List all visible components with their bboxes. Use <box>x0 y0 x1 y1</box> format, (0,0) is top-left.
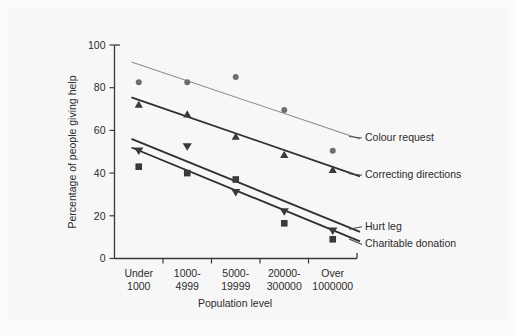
series-label-correcting-directions: Correcting directions <box>365 168 461 180</box>
data-point-charitable-donation <box>184 170 191 177</box>
trend-line-hurt-leg <box>131 139 360 232</box>
series-annotations: Colour requestCorrecting directionsHurt … <box>365 131 461 249</box>
scatter-chart: 020406080100 Under10001000-49995000-1999… <box>0 0 515 336</box>
y-tick-label: 100 <box>88 39 106 51</box>
series-label-colour-request: Colour request <box>365 131 434 143</box>
y-tick-label: 40 <box>94 167 106 179</box>
y-tick-label: 0 <box>100 252 106 264</box>
data-point-charitable-donation <box>135 163 142 170</box>
data-point-correcting-directions <box>183 110 191 117</box>
series-label-charitable-donation: Charitable donation <box>365 237 456 249</box>
x-category-label: 1000000 <box>312 280 353 292</box>
data-point-colour-request <box>233 74 239 80</box>
y-ticks: 020406080100 <box>88 39 115 265</box>
x-axis-title: Population level <box>198 297 272 309</box>
data-point-hurt-leg <box>183 143 192 151</box>
x-ticks <box>163 259 309 264</box>
figure-background: 020406080100 Under10001000-49995000-1999… <box>0 0 515 336</box>
data-point-colour-request <box>184 79 190 85</box>
x-category-label: 20000- <box>268 267 301 279</box>
y-axis-title: Percentage of people giving help <box>66 75 78 228</box>
x-category-label: 1000 <box>127 280 151 292</box>
y-tick-label: 20 <box>94 210 106 222</box>
data-point-charitable-donation <box>329 236 336 243</box>
x-category-label: 5000- <box>222 267 249 279</box>
x-category-labels: Under10001000-49995000-1999920000-300000… <box>124 267 353 292</box>
data-point-colour-request <box>330 148 336 154</box>
data-point-charitable-donation <box>232 176 239 183</box>
leader-line-correcting-directions <box>349 174 362 176</box>
leader-line-colour-request <box>349 136 362 138</box>
data-point-colour-request <box>281 107 287 113</box>
y-tick-label: 80 <box>94 81 106 93</box>
y-tick-label: 60 <box>94 124 106 136</box>
data-point-charitable-donation <box>281 220 288 227</box>
x-category-label: 300000 <box>267 280 302 292</box>
trend-line-charitable-donation <box>131 147 360 241</box>
x-category-label: Under <box>124 267 153 279</box>
trend-line-colour-request <box>131 62 360 139</box>
x-category-label: 1000- <box>174 267 201 279</box>
data-point-correcting-directions <box>329 166 337 173</box>
data-point-hurt-leg <box>231 189 240 197</box>
trend-lines <box>131 62 360 241</box>
data-point-colour-request <box>136 79 142 85</box>
x-category-label: 4999 <box>176 280 200 292</box>
series-label-hurt-leg: Hurt leg <box>365 220 402 232</box>
x-category-label: 19999 <box>221 280 250 292</box>
trend-line-correcting-directions <box>131 97 360 176</box>
x-category-label: Over <box>321 267 344 279</box>
